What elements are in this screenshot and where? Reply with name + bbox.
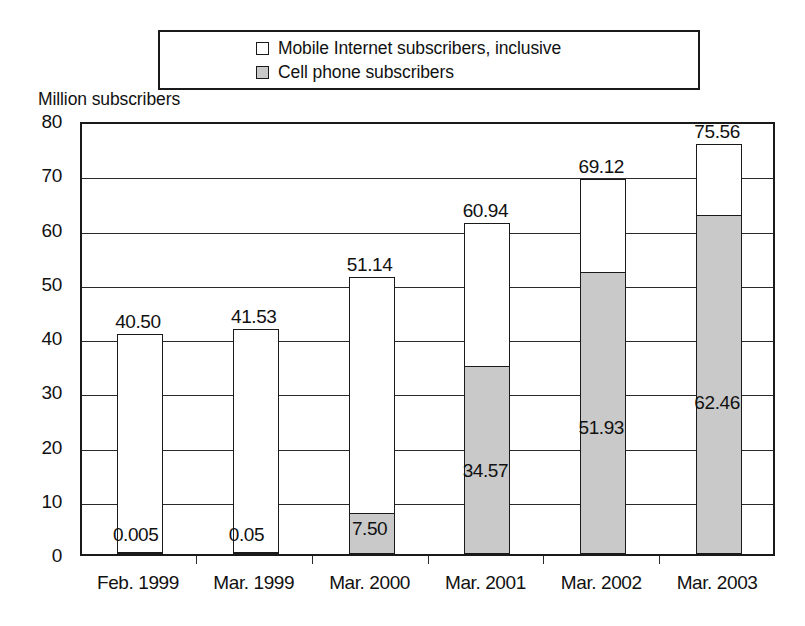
y-axis-title: Million subscribers: [38, 89, 180, 110]
y-axis-tick-label: 10: [14, 491, 62, 513]
y-axis-tick-label: 70: [14, 165, 62, 187]
legend-label-mobile-internet: Mobile Internet subscribers, inclusive: [278, 38, 561, 58]
x-axis-tick-mark: [196, 556, 197, 564]
y-axis-tick-label: 0: [14, 545, 62, 567]
y-axis-tick-label: 40: [14, 328, 62, 350]
bar-inner-label: 0.05: [229, 524, 264, 546]
bar-segment-cell-phone[interactable]: [117, 552, 163, 554]
bar-total-label: 69.12: [541, 156, 661, 178]
bar-total-label: 51.14: [310, 254, 430, 276]
bar-segment-mobile-internet[interactable]: [117, 334, 163, 554]
gridline: [82, 341, 773, 342]
bar-inner-label: 0.005: [113, 524, 159, 546]
bar-segment-cell-phone[interactable]: [696, 215, 742, 554]
chart-legend: Mobile Internet subscribers, inclusive C…: [158, 30, 700, 90]
gridline: [82, 233, 773, 234]
bar-inner-label: 7.50: [322, 518, 418, 540]
bar-inner-label: 34.57: [437, 460, 533, 482]
bar-segment-cell-phone[interactable]: [233, 552, 279, 554]
plot-area: [80, 122, 775, 556]
legend-item-cell-phone: Cell phone subscribers: [256, 62, 454, 82]
bar-column[interactable]: [117, 334, 163, 554]
gridline: [82, 450, 773, 451]
legend-swatch-white-icon: [256, 42, 269, 55]
bar-column[interactable]: [580, 179, 626, 554]
legend-item-mobile-internet: Mobile Internet subscribers, inclusive: [256, 38, 561, 58]
bar-column[interactable]: [696, 144, 742, 554]
bar-column[interactable]: [233, 329, 279, 554]
y-axis-tick-label: 20: [14, 437, 62, 459]
bar-total-label: 75.56: [657, 121, 777, 143]
bar-total-label: 40.50: [78, 311, 198, 333]
gridline: [82, 504, 773, 505]
y-axis-tick-label: 60: [14, 220, 62, 242]
x-axis-tick-mark: [543, 556, 544, 564]
bar-inner-label: 62.46: [669, 392, 765, 414]
bar-segment-mobile-internet[interactable]: [233, 329, 279, 554]
bar-inner-label: 51.93: [553, 417, 649, 439]
legend-label-cell-phone: Cell phone subscribers: [278, 62, 454, 82]
x-axis-tick-mark: [659, 556, 660, 564]
x-axis-tick-mark: [428, 556, 429, 564]
y-axis-tick-label: 80: [14, 111, 62, 133]
y-axis-tick-label: 50: [14, 274, 62, 296]
bar-segment-cell-phone[interactable]: [580, 272, 626, 554]
x-axis-tick-mark: [312, 556, 313, 564]
bar-total-label: 41.53: [194, 306, 314, 328]
bar-column[interactable]: [349, 277, 395, 554]
gridline: [82, 287, 773, 288]
x-axis-category-label: Mar. 2003: [647, 572, 787, 594]
legend-swatch-gray-icon: [256, 66, 269, 79]
y-axis-tick-label: 30: [14, 382, 62, 404]
bar-column[interactable]: [464, 223, 510, 554]
gridline: [82, 178, 773, 179]
bar-total-label: 60.94: [425, 200, 545, 222]
